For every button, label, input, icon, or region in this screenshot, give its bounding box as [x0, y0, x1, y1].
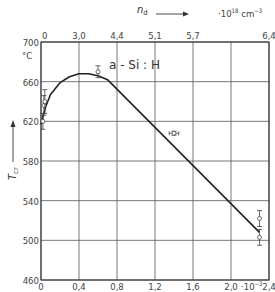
x-tick-label: 2,4	[262, 281, 275, 292]
x-top-label: nd	[137, 4, 148, 17]
x-top-tick-label: 3,0	[72, 30, 86, 41]
data-point	[257, 211, 262, 227]
data-points	[40, 66, 262, 245]
x-top-tick-label: 5,7	[186, 30, 200, 41]
y-tick-label: 500	[23, 235, 39, 246]
y-axis-label: Tcr	[7, 120, 20, 180]
y-tick-label: 540	[23, 196, 39, 207]
data-point	[169, 131, 179, 135]
x-tick-label: 1,6	[186, 281, 200, 292]
data-point	[41, 96, 46, 116]
x-top-tick-label: 6,4	[262, 30, 275, 41]
y-tick-label: 660	[23, 77, 39, 88]
annotation-label: a - Si : H	[109, 58, 160, 72]
x-top-tick-label: 4,4	[110, 30, 124, 41]
data-point	[257, 229, 262, 245]
y-tick-label: 700	[23, 37, 39, 48]
x-top-tick-label: 5,1	[148, 30, 162, 41]
y-unit-label: °C	[22, 50, 32, 61]
x-top-axis-ticks: 03,04,45,15,76,4	[42, 30, 275, 41]
x-tick-label: 0	[38, 281, 43, 292]
x-bottom-unit-label: ·10−3	[241, 280, 263, 292]
y-tick-label: 620	[23, 116, 39, 127]
chart: 460500540580620660700 00,40,81,21,62,02,…	[0, 0, 275, 292]
y-tick-label: 460	[23, 275, 39, 286]
x-top-tick-label: 0	[42, 30, 47, 41]
y-axis-ticks: 460500540580620660700	[23, 37, 39, 286]
grid	[41, 42, 269, 280]
x-top-unit-label: ·1018 cm−3	[218, 7, 262, 19]
fit-curve	[41, 74, 260, 233]
x-top-arrow-icon	[156, 12, 189, 17]
data-point	[42, 90, 47, 114]
x-tick-label: 0,8	[110, 281, 124, 292]
y-tick-label: 580	[23, 156, 39, 167]
x-tick-label: 2,0	[224, 281, 238, 292]
svg-text:Tcr: Tcr	[7, 167, 20, 180]
x-tick-label: 0,4	[72, 281, 86, 292]
x-tick-label: 1,2	[148, 281, 162, 292]
x-axis-ticks: 00,40,81,21,62,02,4	[38, 281, 275, 292]
